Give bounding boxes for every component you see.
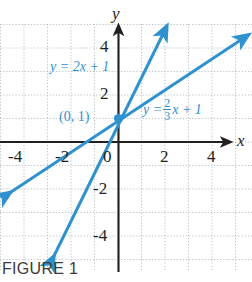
line-2x-plus-1 [51,32,164,262]
coordinate-plane-svg [0,0,252,282]
figure-caption: FIGURE 1 [2,260,78,278]
figure-1-graph: y x 4 2 -2 -4 -4 -2 0 2 4 y = 2x + 1 y =… [0,0,252,282]
line-two-thirds-x-plus-1 [5,39,243,197]
grid-lines [0,24,252,272]
intercept-point-dot [114,114,123,123]
